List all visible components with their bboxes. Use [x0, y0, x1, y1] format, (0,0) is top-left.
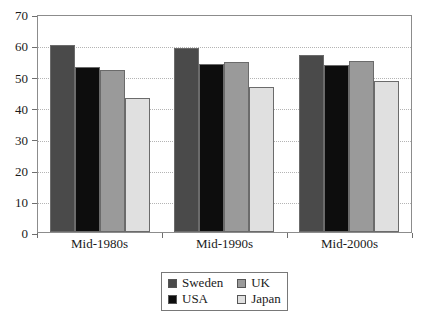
legend-label: Sweden: [182, 275, 223, 291]
bar-japan-mid-1990s: [249, 87, 274, 232]
bar-uk-mid-1980s: [100, 70, 125, 232]
legend-label: USA: [182, 291, 208, 307]
bar-sweden-mid-1990s: [174, 48, 199, 232]
bar-sweden-mid-2000s: [299, 55, 324, 233]
y-axis-tick-label: 40: [15, 103, 32, 117]
x-axis-tick-mark: [412, 233, 413, 238]
bar-sweden-mid-1980s: [50, 45, 75, 232]
y-axis-tick-label: 60: [15, 40, 32, 54]
bar-japan-mid-2000s: [374, 81, 399, 232]
y-axis-tick: 40: [15, 101, 37, 115]
y-axis-tick: 70: [15, 8, 37, 22]
bar-chart-figure: 010203040506070 Mid-1980sMid-1990sMid-20…: [0, 0, 432, 315]
y-axis-tick-label: 50: [15, 72, 32, 86]
legend-label: UK: [251, 275, 270, 291]
x-axis-tick-label: Mid-1990s: [162, 236, 287, 252]
y-axis: 010203040506070: [0, 15, 37, 233]
y-axis-tick-label: 30: [15, 134, 32, 148]
bar-usa-mid-1990s: [199, 64, 224, 232]
y-axis-tick: 60: [15, 39, 37, 53]
x-axis: Mid-1980sMid-1990sMid-2000s: [37, 236, 412, 252]
y-axis-tick-label: 0: [22, 227, 33, 241]
legend-swatch-icon: [237, 279, 246, 288]
chart-legend: SwedenUKUSAJapan: [161, 272, 288, 311]
y-axis-tick: 10: [15, 195, 37, 209]
legend-item-usa[interactable]: USA: [168, 291, 223, 307]
bar-uk-mid-1990s: [224, 62, 249, 232]
y-axis-tick: 50: [15, 70, 37, 84]
y-axis-tick: 20: [15, 164, 37, 178]
legend-swatch-icon: [237, 295, 246, 304]
plot-area: [37, 15, 412, 233]
bar-group: [287, 16, 411, 232]
legend-label: Japan: [251, 291, 281, 307]
bar-japan-mid-1980s: [125, 98, 150, 232]
bar-usa-mid-2000s: [324, 65, 349, 232]
bar-group: [162, 16, 286, 232]
x-axis-tick-label: Mid-2000s: [287, 236, 412, 252]
bar-uk-mid-2000s: [349, 61, 374, 232]
x-axis-tick-label: Mid-1980s: [37, 236, 162, 252]
legend-item-sweden[interactable]: Sweden: [168, 275, 223, 291]
y-axis-tick-label: 20: [15, 165, 32, 179]
legend-item-japan[interactable]: Japan: [237, 291, 281, 307]
bar-group: [38, 16, 162, 232]
legend-swatch-icon: [168, 279, 177, 288]
y-axis-tick-label: 70: [15, 9, 32, 23]
y-axis-tick: 0: [22, 226, 38, 240]
bars-layer: [38, 16, 411, 232]
legend-swatch-icon: [168, 295, 177, 304]
y-axis-tick-label: 10: [15, 196, 32, 210]
legend-item-uk[interactable]: UK: [237, 275, 281, 291]
y-axis-tick: 30: [15, 133, 37, 147]
bar-usa-mid-1980s: [75, 67, 100, 232]
